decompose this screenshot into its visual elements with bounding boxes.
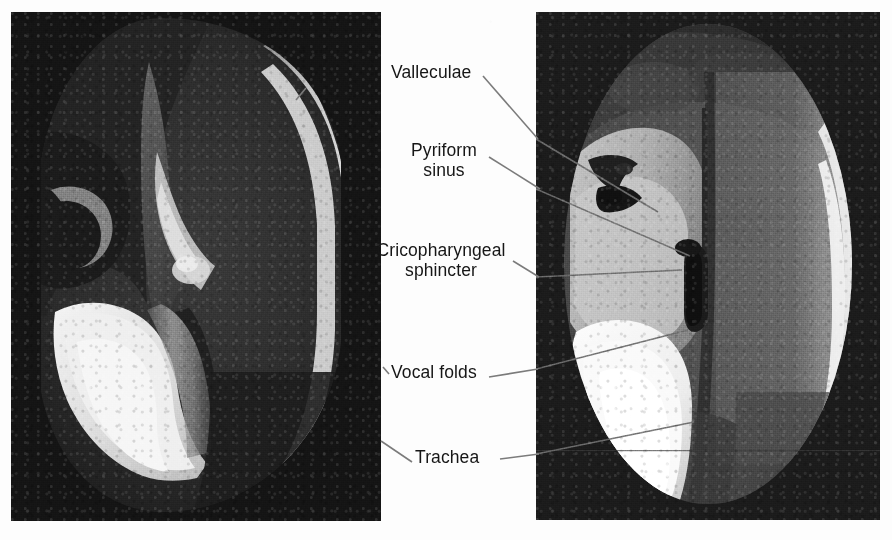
label-valleculae-text: Valleculae — [391, 62, 471, 82]
lateral-view-radiograph — [11, 12, 381, 521]
leader-trachea-left — [381, 441, 412, 462]
label-vocal-folds-text: Vocal folds — [391, 362, 477, 382]
leader-valleculae-right — [483, 76, 538, 139]
label-pyriform-line1: Pyriform — [398, 140, 490, 160]
ap-radiograph-image — [536, 12, 880, 520]
label-cricopharyngeal-line2: sphincter — [372, 260, 510, 280]
label-vocal-folds: Vocal folds — [391, 362, 477, 382]
label-pyriform-sinus: Pyriform sinus — [398, 140, 490, 180]
label-pyriform-line2: sinus — [398, 160, 490, 180]
figure-annotated-swallow-radiographs: Valleculae Pyriform sinus Cricopharyngea… — [0, 0, 892, 540]
label-valleculae: Valleculae — [391, 62, 471, 82]
leader-trachea-right — [500, 454, 539, 459]
label-cricopharyngeal-line1: Cricopharyngeal — [372, 240, 510, 260]
label-cricopharyngeal-sphincter: Cricopharyngeal sphincter — [372, 240, 510, 280]
label-trachea-text: Trachea — [415, 447, 479, 467]
lateral-radiograph-image — [11, 12, 381, 521]
anteroposterior-view-radiograph — [536, 12, 880, 520]
leader-vocalfolds-right — [489, 369, 538, 377]
leader-pyriform-right — [489, 157, 540, 189]
leader-vocalfolds-left — [383, 367, 389, 374]
label-trachea: Trachea — [415, 447, 479, 467]
